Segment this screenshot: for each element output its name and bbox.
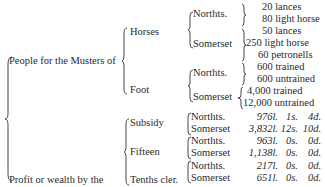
- foot-somerset: Somerset: [193, 91, 232, 103]
- musters-brace: [121, 27, 129, 95]
- horses-northants: Northts.: [193, 8, 227, 20]
- money-pounds: 976l.: [238, 111, 278, 123]
- horses-somerset: Somerset: [193, 38, 232, 50]
- money-pounds: 3,832l.: [238, 123, 278, 135]
- money-pence: 0d.: [299, 160, 321, 172]
- money-pence: 10d.: [299, 123, 321, 135]
- money-pounds: 217l.: [238, 160, 278, 172]
- money-shillings: 0s.: [280, 147, 298, 159]
- money-county: Northts.: [191, 160, 225, 172]
- tenths-label: Tenths cler.: [130, 174, 178, 186]
- money-county: Somerset: [191, 147, 230, 159]
- money-county: Somerset: [191, 172, 230, 184]
- money-pounds: 651l.: [238, 172, 278, 184]
- main-brace: [4, 56, 14, 182]
- horses-n-1: 20 lances: [262, 1, 301, 13]
- money-county: Northts.: [191, 135, 225, 147]
- foot-s-1: 4,000 trained: [247, 85, 302, 97]
- foot-n-2: 600 untrained: [257, 73, 315, 85]
- horses-label: Horses: [130, 26, 159, 38]
- money-pence: 0d.: [299, 172, 321, 184]
- fifteen-label: Fifteen: [130, 146, 160, 158]
- money-pence: 0d.: [299, 147, 321, 159]
- horses-s-1: 50 lances: [262, 25, 301, 37]
- horses-n-2: 80 light horse: [262, 13, 320, 25]
- money-pounds: 1,138l.: [238, 147, 278, 159]
- foot-label: Foot: [130, 84, 149, 96]
- money-shillings: 12s.: [280, 123, 298, 135]
- foot-s-2: 12,000 untrained: [243, 97, 314, 109]
- horses-s-3: 60 petronells: [258, 49, 313, 61]
- musters-label: People for the Musters of: [9, 55, 116, 67]
- money-county: Northts.: [191, 111, 225, 123]
- profit-label: Profit or wealth by the: [9, 174, 103, 186]
- foot-northants-brace: [239, 62, 247, 86]
- money-shillings: 0s.: [280, 135, 298, 147]
- money-shillings: 0s.: [280, 172, 298, 184]
- horses-northants-brace: [239, 3, 247, 27]
- money-county: Somerset: [191, 123, 230, 135]
- subsidy-label: Subsidy: [130, 117, 164, 129]
- foot-northants: Northts.: [193, 67, 227, 79]
- foot-n-1: 600 trained: [257, 61, 305, 73]
- horses-s-2: 250 light horse: [246, 37, 309, 49]
- money-pence: 4d.: [299, 111, 321, 123]
- money-pence: 0d.: [299, 135, 321, 147]
- money-shillings: 0s.: [280, 160, 298, 172]
- money-pounds: 963l.: [238, 135, 278, 147]
- money-shillings: 1s.: [280, 111, 298, 123]
